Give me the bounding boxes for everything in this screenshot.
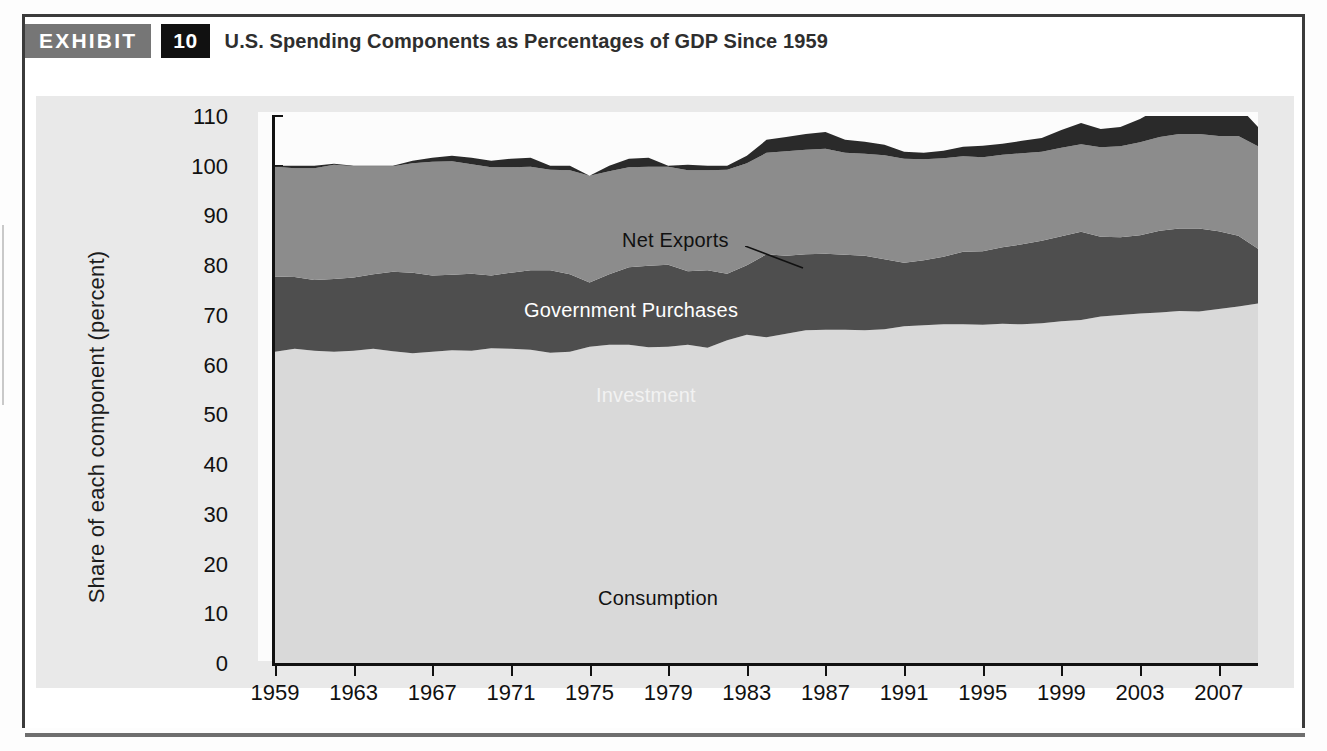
- x-tick-label: 1983: [722, 680, 771, 706]
- x-tick-mark: [825, 666, 827, 676]
- area-consumption: [275, 303, 1258, 663]
- x-tick-label: 1963: [329, 680, 378, 706]
- x-tick-mark: [1140, 666, 1142, 676]
- x-tick-mark: [1219, 666, 1221, 676]
- x-tick-mark: [354, 666, 356, 676]
- y-axis-label: Share of each component (percent): [84, 147, 110, 707]
- y-tick-label: 0: [166, 651, 228, 677]
- x-tick-mark: [275, 666, 277, 676]
- x-tick-label: 2003: [1116, 680, 1165, 706]
- x-axis-line: [272, 663, 1258, 666]
- x-tick-mark: [511, 666, 513, 676]
- y-tick-label: 40: [166, 452, 228, 478]
- x-tick-label: 1991: [880, 680, 929, 706]
- series-label-net-exports: Net Exports: [622, 229, 729, 252]
- x-tick-label: 1979: [644, 680, 693, 706]
- x-tick-label: 1987: [801, 680, 850, 706]
- chart-panel: Share of each component (percent) 010203…: [36, 96, 1294, 688]
- x-tick-label: 1999: [1037, 680, 1086, 706]
- x-tick-label: 1971: [486, 680, 535, 706]
- x-tick-label: 1967: [408, 680, 457, 706]
- y-tick-label: 80: [166, 253, 228, 279]
- x-tick-label: 2007: [1194, 680, 1243, 706]
- y-tick-label: 110: [166, 104, 228, 130]
- page-edge-accent: [2, 225, 4, 405]
- y-tick-label: 30: [166, 502, 228, 528]
- exhibit-header: EXHIBIT 10 U.S. Spending Components as P…: [25, 20, 828, 62]
- y-tick-label: 10: [166, 601, 228, 627]
- exhibit-number-badge: 10: [161, 24, 209, 58]
- exhibit-page: EXHIBIT 10 U.S. Spending Components as P…: [0, 0, 1327, 751]
- stacked-area-chart: [275, 116, 1258, 663]
- x-tick-label: 1995: [958, 680, 1007, 706]
- y-axis-tick-labels: 0102030405060708090100110: [166, 96, 228, 688]
- series-label-investment: Investment: [596, 384, 696, 407]
- y-tick-label: 20: [166, 552, 228, 578]
- x-tick-mark: [904, 666, 906, 676]
- series-label-consumption: Consumption: [598, 587, 718, 610]
- x-tick-mark: [590, 666, 592, 676]
- x-tick-mark: [1061, 666, 1063, 676]
- y-tick-label: 100: [166, 154, 228, 180]
- x-tick-mark: [983, 666, 985, 676]
- x-tick-label: 1975: [565, 680, 614, 706]
- y-tick-label: 60: [166, 353, 228, 379]
- exhibit-badge: EXHIBIT: [25, 24, 151, 58]
- x-tick-label: 1959: [251, 680, 300, 706]
- page-title: U.S. Spending Components as Percentages …: [225, 30, 828, 53]
- series-label-government-purchases: Government Purchases: [524, 299, 738, 322]
- y-tick-label: 50: [166, 402, 228, 428]
- footer-rule: [25, 733, 1305, 737]
- y-tick-label: 70: [166, 303, 228, 329]
- y-tick-label: 90: [166, 203, 228, 229]
- x-tick-mark: [432, 666, 434, 676]
- x-tick-mark: [747, 666, 749, 676]
- x-tick-mark: [668, 666, 670, 676]
